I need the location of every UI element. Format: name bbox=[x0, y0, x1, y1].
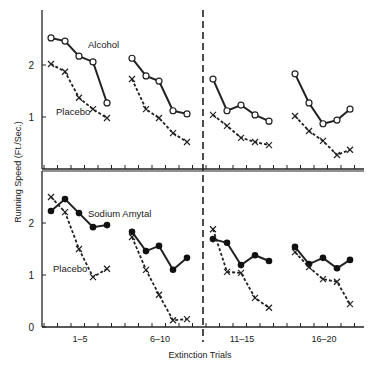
x-marker bbox=[48, 61, 54, 67]
filled-circle-marker bbox=[334, 265, 341, 272]
axes: 120121–56–1011–1516–20 bbox=[28, 10, 364, 344]
x-marker bbox=[156, 292, 162, 298]
open-circle-marker bbox=[210, 76, 216, 82]
filled-circle-marker bbox=[104, 222, 111, 229]
x-marker bbox=[347, 147, 353, 153]
x-marker bbox=[292, 113, 298, 119]
filled-circle-marker bbox=[90, 224, 97, 231]
x-marker bbox=[306, 128, 312, 134]
x-marker bbox=[90, 274, 96, 280]
open-circle-marker bbox=[90, 59, 96, 65]
open-circle-marker bbox=[238, 102, 244, 108]
x-marker bbox=[210, 112, 216, 118]
y-tick-label: 1 bbox=[28, 270, 34, 281]
open-circle-marker bbox=[306, 100, 312, 106]
open-circle-marker bbox=[347, 106, 353, 112]
series-line-sodium-amytal bbox=[213, 239, 269, 265]
x-group-label: 6–10 bbox=[150, 334, 170, 344]
filled-circle-marker bbox=[238, 262, 245, 269]
x-group-label: 1–5 bbox=[72, 334, 87, 344]
filled-circle-marker bbox=[143, 248, 150, 255]
x-axis-title: Extinction Trials bbox=[168, 350, 232, 360]
open-circle-marker bbox=[320, 121, 326, 127]
open-circle-marker bbox=[48, 35, 54, 41]
x-marker bbox=[170, 317, 176, 323]
x-marker bbox=[334, 152, 340, 158]
open-circle-marker bbox=[252, 112, 258, 118]
open-circle-marker bbox=[143, 73, 149, 79]
open-circle-marker bbox=[170, 108, 176, 114]
y-tick-label: 1 bbox=[28, 112, 34, 123]
series-label: Placebo bbox=[53, 263, 87, 274]
extinction-trials-chart: 120121–56–1011–1516–20 AlcoholPlaceboSod… bbox=[0, 0, 377, 370]
series-label: Sodium Amytal bbox=[88, 208, 151, 219]
x-marker bbox=[266, 142, 272, 148]
series-line-alcohol bbox=[132, 58, 187, 114]
y-axis-title: Running Speed (Ft./Sec.) bbox=[13, 121, 23, 223]
filled-circle-marker bbox=[48, 208, 55, 215]
series-line-placebo bbox=[132, 237, 187, 320]
series-label: Alcohol bbox=[88, 39, 119, 50]
open-circle-marker bbox=[62, 38, 68, 44]
x-marker bbox=[347, 301, 353, 307]
x-marker bbox=[170, 130, 176, 136]
y-tick-label: 0 bbox=[28, 322, 34, 333]
filled-circle-marker bbox=[224, 239, 231, 246]
filled-circle-marker bbox=[184, 255, 191, 262]
x-group-label: 16–20 bbox=[311, 334, 336, 344]
x-marker bbox=[104, 115, 110, 121]
x-marker bbox=[224, 123, 230, 129]
open-circle-marker bbox=[292, 71, 298, 77]
open-circle-marker bbox=[224, 108, 230, 114]
x-group-label: 11–15 bbox=[230, 334, 254, 344]
filled-circle-marker bbox=[347, 257, 354, 264]
open-circle-marker bbox=[266, 118, 272, 124]
y-tick-label: 2 bbox=[28, 218, 34, 229]
filled-circle-marker bbox=[252, 252, 259, 259]
series-line-alcohol bbox=[295, 74, 350, 124]
series-line-placebo bbox=[132, 79, 187, 142]
x-marker bbox=[266, 305, 272, 311]
x-marker bbox=[156, 115, 162, 121]
x-marker bbox=[238, 135, 244, 141]
open-circle-marker bbox=[156, 78, 162, 84]
series-layer bbox=[48, 35, 354, 323]
open-circle-marker bbox=[334, 117, 340, 123]
x-marker bbox=[48, 194, 54, 200]
y-tick-label: 2 bbox=[28, 60, 34, 71]
open-circle-marker bbox=[104, 100, 110, 106]
x-marker bbox=[90, 106, 96, 112]
x-marker bbox=[184, 316, 190, 322]
filled-circle-marker bbox=[156, 243, 163, 250]
series-line-placebo bbox=[213, 115, 269, 145]
x-marker bbox=[184, 139, 190, 145]
x-marker bbox=[62, 69, 68, 75]
open-circle-marker bbox=[76, 53, 82, 59]
x-marker bbox=[252, 295, 258, 301]
x-marker bbox=[320, 138, 326, 144]
x-marker bbox=[143, 267, 149, 273]
filled-circle-marker bbox=[170, 267, 177, 274]
filled-circle-marker bbox=[320, 255, 327, 262]
open-circle-marker bbox=[184, 111, 190, 117]
open-circle-marker bbox=[129, 55, 135, 61]
x-marker bbox=[76, 246, 82, 252]
x-marker bbox=[76, 95, 82, 101]
series-line-sodium-amytal bbox=[132, 232, 187, 270]
series-line-alcohol bbox=[213, 79, 269, 121]
filled-circle-marker bbox=[266, 258, 273, 265]
x-marker bbox=[104, 266, 110, 272]
filled-circle-marker bbox=[62, 196, 69, 203]
series-label: Placebo bbox=[56, 106, 90, 117]
filled-circle-marker bbox=[76, 210, 83, 217]
